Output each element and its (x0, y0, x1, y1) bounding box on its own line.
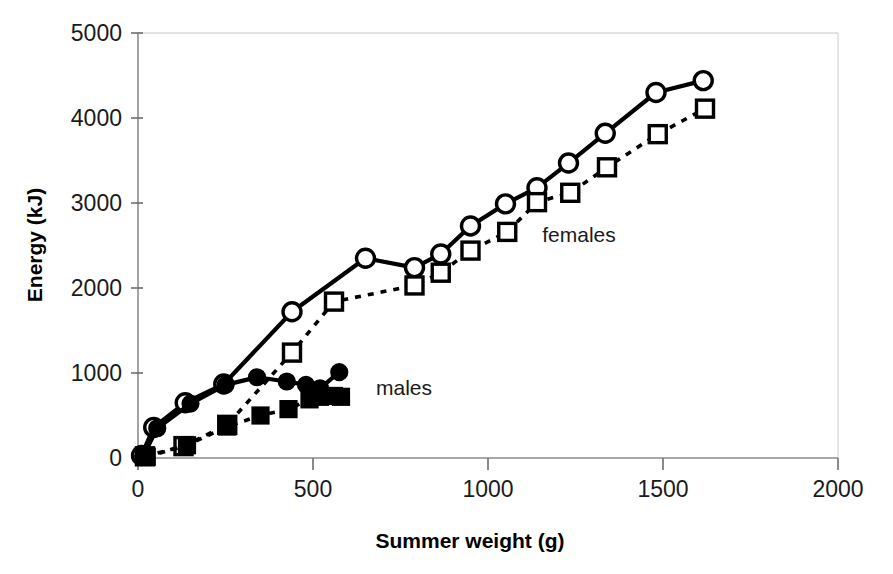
y-tick-label: 4000 (71, 105, 122, 131)
data-point-open-circle (647, 84, 665, 102)
data-point-open-square (562, 184, 579, 201)
data-point-open-circle (560, 154, 578, 172)
data-point-open-square (326, 293, 343, 310)
x-tick-label: 500 (294, 476, 332, 502)
y-axis-tick-labels: 5000 4000 3000 2000 1000 0 (71, 20, 122, 471)
x-axis-ticks (138, 458, 838, 470)
data-point-filled-circle (218, 377, 234, 393)
x-tick-label: 1500 (637, 476, 688, 502)
data-point-open-square (432, 264, 449, 281)
x-axis-title: Summer weight (g) (375, 529, 564, 552)
y-tick-label: 3000 (71, 190, 122, 216)
series-annotation-females: females (542, 223, 616, 246)
y-tick-label: 1000 (71, 360, 122, 386)
data-point-open-circle (406, 259, 424, 277)
data-point-open-square (697, 100, 714, 117)
data-point-open-square (462, 242, 479, 259)
data-point-filled-circle (183, 396, 199, 412)
data-point-filled-square (281, 401, 297, 417)
x-axis-tick-labels: 0 500 1000 1500 2000 (132, 476, 864, 502)
data-point-open-circle (694, 72, 712, 90)
y-tick-label: 2000 (71, 275, 122, 301)
y-axis-title: Energy (kJ) (23, 188, 46, 302)
x-tick-label: 0 (132, 476, 145, 502)
x-tick-label: 1000 (462, 476, 513, 502)
x-tick-label: 2000 (812, 476, 863, 502)
data-point-open-circle (497, 195, 515, 213)
data-point-open-circle (432, 245, 450, 263)
data-point-filled-circle (249, 369, 265, 385)
data-point-open-square (284, 344, 301, 361)
data-point-open-square (599, 159, 616, 176)
data-point-filled-square (179, 437, 195, 453)
data-point-open-circle (596, 124, 614, 142)
data-point-open-circle (462, 217, 480, 235)
data-point-open-circle (283, 303, 301, 321)
plot-background (138, 33, 838, 458)
data-point-filled-square (139, 449, 155, 465)
data-point-open-square (649, 126, 666, 143)
data-point-filled-circle (331, 364, 347, 380)
data-point-filled-circle (279, 374, 295, 390)
data-point-filled-square (219, 419, 235, 435)
data-point-filled-circle (149, 420, 165, 436)
y-tick-label: 0 (109, 445, 122, 471)
y-tick-label: 5000 (71, 20, 122, 46)
data-point-open-square (406, 277, 423, 294)
line-chart: 5000 4000 3000 2000 1000 0 0 500 1000 15… (0, 0, 893, 574)
data-point-open-circle (357, 249, 375, 267)
data-point-open-square (499, 223, 516, 240)
data-point-filled-square (253, 408, 269, 424)
data-point-open-square (529, 194, 546, 211)
chart-figure: 5000 4000 3000 2000 1000 0 0 500 1000 15… (0, 0, 893, 574)
series-annotation-males: males (376, 376, 432, 399)
data-point-filled-square (333, 389, 349, 405)
